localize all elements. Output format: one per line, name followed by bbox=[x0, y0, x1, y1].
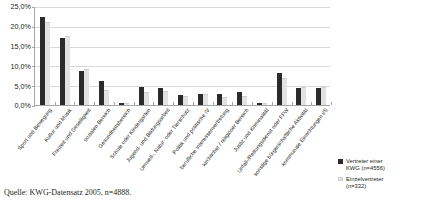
chart-legend: Vertreter einer KWG (n=4556) Einzelvertr… bbox=[338, 158, 428, 194]
x-axis-tick-mark bbox=[213, 102, 214, 105]
legend-swatch-light-icon bbox=[338, 177, 343, 182]
x-axis-tick-mark bbox=[193, 102, 194, 105]
x-axis-tick-mark bbox=[292, 102, 293, 105]
bar-einzelvertreter bbox=[45, 22, 50, 105]
x-axis-tick-mark bbox=[331, 102, 332, 105]
bar-group bbox=[257, 6, 267, 105]
bar-einzelvertreter bbox=[65, 36, 70, 106]
x-axis-category-label: Justiz und Kriminalität bbox=[232, 107, 270, 153]
source-note: Quelle: KWG-Datensatz 2005, n=4888. bbox=[4, 188, 131, 198]
x-axis-tick-mark bbox=[134, 102, 135, 105]
bar-group bbox=[158, 6, 168, 105]
bar-einzelvertreter bbox=[262, 103, 267, 105]
bar-group bbox=[316, 6, 326, 105]
plot-area bbox=[34, 7, 330, 106]
chart-figure: 25,0%20,0%15,0%10,0%5,0%0,0% Sport und B… bbox=[0, 0, 429, 206]
legend-label-einzel-line2: (n=332) bbox=[346, 183, 366, 189]
x-axis-category-label: Sport und Bewegung bbox=[16, 107, 52, 151]
bar-group bbox=[99, 6, 109, 105]
bar-group bbox=[217, 6, 227, 105]
legend-item-kwg: Vertreter einer KWG (n=4556) bbox=[338, 158, 428, 173]
x-axis-tick-mark bbox=[232, 102, 233, 105]
bar-einzelvertreter bbox=[203, 94, 208, 105]
bar-group bbox=[60, 6, 70, 105]
y-axis-tick-label: 0,0% bbox=[0, 102, 31, 109]
x-axis-tick-mark bbox=[311, 102, 312, 105]
x-axis-tick-mark bbox=[114, 102, 115, 105]
x-axis-tick-mark bbox=[252, 102, 253, 105]
legend-label-kwg-line2: KWG (n=4556) bbox=[346, 165, 385, 171]
bar-group bbox=[40, 6, 50, 105]
legend-label-einzel-line1: Einzelvertreter bbox=[346, 176, 383, 182]
x-axis-tick-mark bbox=[173, 102, 174, 105]
bar-einzelvertreter bbox=[183, 96, 188, 105]
y-axis-tick-label: 5,0% bbox=[0, 83, 31, 90]
bar-einzelvertreter bbox=[84, 69, 89, 105]
legend-label-kwg-line1: Vertreter einer bbox=[346, 158, 383, 164]
bar-group bbox=[237, 6, 247, 105]
bar-group bbox=[139, 6, 149, 105]
x-axis-tick-mark bbox=[55, 102, 56, 105]
bar-einzelvertreter bbox=[321, 87, 326, 105]
bar-einzelvertreter bbox=[282, 78, 287, 105]
bar-group bbox=[296, 6, 306, 105]
bar-einzelvertreter bbox=[104, 90, 109, 105]
y-axis-tick-label: 20,0% bbox=[0, 23, 31, 30]
legend-item-einzelvertreter: Einzelvertreter (n=332) bbox=[338, 176, 428, 191]
x-axis-tick-mark bbox=[74, 102, 75, 105]
bar-group bbox=[178, 6, 188, 105]
bar-einzelvertreter bbox=[301, 87, 306, 105]
bar-group bbox=[198, 6, 208, 105]
y-axis-tick-label: 15,0% bbox=[0, 43, 31, 50]
legend-swatch-dark-icon bbox=[338, 159, 343, 164]
y-axis-tick-label: 10,0% bbox=[0, 63, 31, 70]
bar-einzelvertreter bbox=[144, 92, 149, 105]
x-axis-tick-mark bbox=[94, 102, 95, 105]
x-axis-tick-mark bbox=[153, 102, 154, 105]
bar-group bbox=[119, 6, 129, 105]
y-axis-tick-label: 25,0% bbox=[0, 3, 31, 10]
bar-group bbox=[277, 6, 287, 105]
x-axis-tick-mark bbox=[272, 102, 273, 105]
bar-group bbox=[79, 6, 89, 105]
bar-einzelvertreter bbox=[242, 96, 247, 105]
x-axis-labels: Sport und BewegungKultur und MusikFreize… bbox=[34, 107, 330, 199]
bar-einzelvertreter bbox=[163, 91, 168, 105]
bar-einzelvertreter bbox=[222, 97, 227, 105]
bar-einzelvertreter bbox=[124, 103, 129, 105]
